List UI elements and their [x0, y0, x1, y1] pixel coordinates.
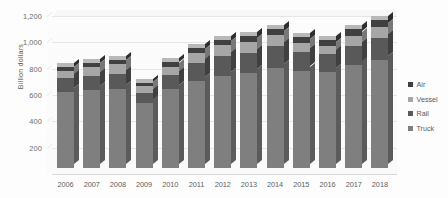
bar-segment-side	[231, 68, 236, 164]
bar-2014[interactable]	[267, 29, 284, 168]
bar-2007[interactable]	[83, 63, 100, 168]
bar-2009[interactable]	[136, 83, 153, 168]
bar-segment-side	[153, 96, 158, 164]
bar-segment-rail[interactable]	[345, 46, 362, 66]
bar-segment-rail[interactable]	[293, 52, 310, 70]
legend-swatch-icon	[408, 111, 413, 116]
bar-segment-side	[179, 81, 184, 164]
bar-segment-rail[interactable]	[162, 75, 179, 89]
legend-item-vessel[interactable]: Vessel	[408, 95, 438, 104]
x-tick-2018: 2018	[363, 180, 397, 189]
bar-segment-side	[336, 64, 341, 164]
bar-segment-side	[74, 84, 79, 164]
bar-segment-truck[interactable]	[345, 65, 362, 168]
bar-2012[interactable]	[214, 40, 231, 168]
bar-segment-vessel[interactable]	[188, 53, 205, 64]
legend-item-truck[interactable]: Truck	[408, 124, 438, 133]
legend-label: Truck	[417, 124, 435, 133]
legend-swatch-icon	[408, 82, 413, 87]
bar-2011[interactable]	[188, 48, 205, 168]
bar-segment-side	[362, 57, 367, 164]
bar-segment-side	[257, 65, 262, 164]
bar-segment-rail[interactable]	[214, 56, 231, 76]
legend-label: Air	[417, 80, 426, 89]
bar-segment-rail[interactable]	[319, 54, 336, 72]
bar-segment-vessel[interactable]	[267, 35, 284, 46]
y-tick-400: 400	[8, 117, 42, 126]
bar-segment-rail[interactable]	[109, 74, 126, 89]
bar-segment-rail[interactable]	[136, 93, 153, 104]
legend-swatch-icon	[408, 97, 413, 102]
axis-baseline	[52, 174, 397, 175]
bar-segment-vessel[interactable]	[371, 27, 388, 38]
bar-segment-truck[interactable]	[240, 73, 257, 168]
bar-segment-truck[interactable]	[57, 92, 74, 168]
bar-segment-side	[284, 60, 289, 164]
bar-segment-vessel[interactable]	[293, 43, 310, 52]
bar-segment-side	[310, 63, 315, 164]
y-axis-tick-labels: 2004006008001,0001,200	[4, 0, 42, 198]
bar-segment-vessel[interactable]	[345, 36, 362, 46]
bar-segment-rail[interactable]	[240, 53, 257, 73]
bar-segment-rail[interactable]	[267, 46, 284, 68]
bar-segment-truck[interactable]	[319, 72, 336, 168]
bar-2017[interactable]	[345, 29, 362, 168]
bar-2008[interactable]	[109, 60, 126, 168]
bar-2016[interactable]	[319, 40, 336, 168]
bar-segment-rail[interactable]	[188, 63, 205, 81]
legend-item-rail[interactable]: Rail	[408, 109, 438, 118]
bar-segment-truck[interactable]	[267, 68, 284, 168]
bar-segment-vessel[interactable]	[319, 46, 336, 55]
bar-segment-vessel[interactable]	[162, 67, 179, 75]
bar-2015[interactable]	[293, 37, 310, 168]
bar-segment-vessel[interactable]	[109, 64, 126, 74]
bar-segment-truck[interactable]	[83, 90, 100, 168]
bar-segment-truck[interactable]	[188, 81, 205, 168]
bar-segment-truck[interactable]	[371, 60, 388, 168]
bar-segment-vessel[interactable]	[214, 45, 231, 56]
bar-segment-rail[interactable]	[57, 78, 74, 92]
bar-segment-truck[interactable]	[162, 89, 179, 168]
bar-segment-vessel[interactable]	[136, 86, 153, 93]
y-tick-800: 800	[8, 64, 42, 73]
plot-area	[47, 8, 397, 176]
y-tick-200: 200	[8, 143, 42, 152]
bar-segment-truck[interactable]	[109, 89, 126, 168]
bar-segment-side	[100, 82, 105, 164]
bar-segment-air[interactable]	[371, 20, 388, 27]
bar-2018[interactable]	[371, 20, 388, 168]
bar-segment-vessel[interactable]	[83, 67, 100, 76]
legend-label: Vessel	[417, 95, 438, 104]
legend-item-air[interactable]: Air	[408, 80, 438, 89]
bar-segment-vessel[interactable]	[240, 42, 257, 53]
bar-segment-side	[388, 52, 393, 164]
bar-segment-rail[interactable]	[83, 76, 100, 90]
bar-2010[interactable]	[162, 62, 179, 168]
y-tick-1000: 1,000	[8, 38, 42, 47]
bar-segment-truck[interactable]	[136, 103, 153, 168]
bar-2006[interactable]	[57, 67, 74, 168]
bar-segment-truck[interactable]	[293, 71, 310, 168]
bar-segment-vessel[interactable]	[57, 71, 74, 79]
bar-segment-side	[126, 81, 131, 164]
bar-segment-side	[205, 73, 210, 164]
y-tick-600: 600	[8, 91, 42, 100]
y-tick-1200: 1,200	[8, 12, 42, 21]
legend: AirVesselRailTruck	[408, 80, 438, 138]
bar-2013[interactable]	[240, 36, 257, 168]
bar-segment-rail[interactable]	[371, 38, 388, 60]
legend-label: Rail	[417, 109, 429, 118]
stacked-bar-chart: Billion dollars 2004006008001,0001,200 2…	[0, 0, 448, 198]
gridline	[52, 16, 397, 17]
bar-segment-truck[interactable]	[214, 76, 231, 168]
legend-swatch-icon	[408, 126, 413, 131]
